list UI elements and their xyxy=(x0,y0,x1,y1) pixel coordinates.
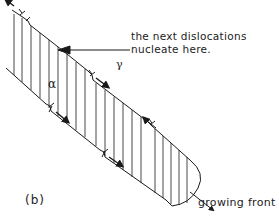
panel-label: (b) xyxy=(25,193,45,207)
gamma-phase-label: γ xyxy=(116,58,123,71)
alpha-phase-label: α xyxy=(48,77,56,91)
annotation-line-2: nucleate here. xyxy=(131,43,247,56)
nucleation-annotation: the next dislocations nucleate here. xyxy=(131,30,247,56)
dislocations xyxy=(6,0,156,166)
nucleation-pointer xyxy=(58,46,130,54)
growing-front-label: growing front xyxy=(198,196,276,209)
annotation-line-1: the next dislocations xyxy=(131,30,247,43)
